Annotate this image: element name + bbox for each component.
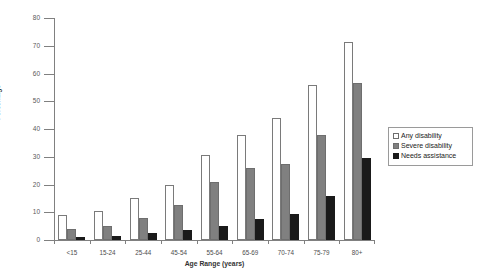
x-tick-label: 75-79 [304, 249, 340, 256]
bar-group: 75-79 [304, 18, 340, 240]
x-tick-mark [268, 240, 269, 244]
bar-group: 55-64 [197, 18, 233, 240]
bar-severe [210, 182, 219, 240]
bar-chart: 01020304050607080 Percentage Age Range (… [0, 0, 477, 279]
y-tick-label: 80 [14, 15, 40, 22]
legend-swatch-severe-disability [393, 143, 399, 149]
legend-item-needs-assistance: Needs assistance [393, 152, 468, 160]
x-tick-mark [54, 240, 55, 244]
bar-any [308, 85, 317, 240]
y-tick-label: 60 [14, 71, 40, 78]
y-tick-mark [44, 18, 54, 19]
x-tick-mark [232, 240, 233, 244]
x-tick-mark [197, 240, 198, 244]
y-tick-mark [44, 129, 54, 130]
bar-severe [67, 229, 76, 240]
y-tick-label: 40 [14, 126, 40, 133]
bar-severe [317, 135, 326, 240]
x-tick-mark [90, 240, 91, 244]
x-tick-mark [161, 240, 162, 244]
legend-label-needs-assistance: Needs assistance [401, 152, 456, 160]
y-tick-mark [44, 46, 54, 47]
y-tick-label: 0 [14, 237, 40, 244]
bar-any [272, 118, 281, 240]
bar-severe [174, 205, 183, 240]
bar-group: 65-69 [232, 18, 268, 240]
y-tick-label: 70 [14, 43, 40, 50]
y-tick-mark [44, 157, 54, 158]
y-axis-title: Percentage [0, 85, 1, 120]
bar-any [130, 198, 139, 240]
bar-group: 15-24 [90, 18, 126, 240]
bar-needs [112, 236, 121, 240]
bar-severe [246, 168, 255, 240]
x-tick-label: 25-44 [125, 249, 161, 256]
bar-any [94, 211, 103, 240]
bar-any [201, 155, 210, 240]
y-tick-mark [44, 74, 54, 75]
bar-groups: <1515-2425-4445-5455-6465-6970-7475-7980… [54, 18, 375, 240]
legend-item-severe-disability: Severe disability [393, 142, 468, 150]
legend-label-any-disability: Any disability [401, 132, 442, 140]
legend-swatch-needs-assistance [393, 153, 399, 159]
x-tick-label: 45-54 [161, 249, 197, 256]
x-tick-mark [304, 240, 305, 244]
bar-needs [219, 226, 228, 240]
bar-needs [255, 219, 264, 240]
bar-group: 70-74 [268, 18, 304, 240]
legend-swatch-any-disability [393, 133, 399, 139]
bar-severe [353, 83, 362, 240]
bar-severe [281, 164, 290, 240]
x-axis-line [54, 240, 375, 241]
x-tick-mark [374, 240, 375, 244]
x-axis-title: Age Range (years) [54, 260, 375, 267]
bar-any [58, 215, 67, 240]
bar-group: 45-54 [161, 18, 197, 240]
y-tick-mark [44, 185, 54, 186]
x-tick-mark [339, 240, 340, 244]
y-tick-mark [44, 212, 54, 213]
x-tick-label: 55-64 [197, 249, 233, 256]
bar-group: <15 [54, 18, 90, 240]
x-tick-label: 15-24 [90, 249, 126, 256]
y-tick-label: 10 [14, 209, 40, 216]
x-tick-label: 70-74 [268, 249, 304, 256]
bar-group: 80+ [339, 18, 375, 240]
bar-needs [148, 233, 157, 240]
y-tick-label: 50 [14, 98, 40, 105]
bar-needs [290, 214, 299, 240]
bar-severe [139, 218, 148, 240]
bar-severe [103, 226, 112, 240]
y-tick-mark [44, 240, 54, 241]
x-tick-mark [125, 240, 126, 244]
legend-item-any-disability: Any disability [393, 132, 468, 140]
bar-needs [362, 158, 371, 240]
y-tick-label: 30 [14, 154, 40, 161]
x-tick-label: 65-69 [232, 249, 268, 256]
bar-any [344, 42, 353, 240]
bar-needs [76, 237, 85, 240]
bar-any [165, 185, 174, 241]
y-tick-label: 20 [14, 182, 40, 189]
chart-legend: Any disability Severe disability Needs a… [388, 127, 473, 166]
bar-group: 25-44 [125, 18, 161, 240]
y-tick-mark [44, 101, 54, 102]
legend-label-severe-disability: Severe disability [401, 142, 452, 150]
bar-needs [183, 230, 192, 240]
bar-any [237, 135, 246, 240]
x-tick-label: 80+ [339, 249, 375, 256]
bar-needs [326, 196, 335, 240]
x-tick-label: <15 [54, 249, 90, 256]
